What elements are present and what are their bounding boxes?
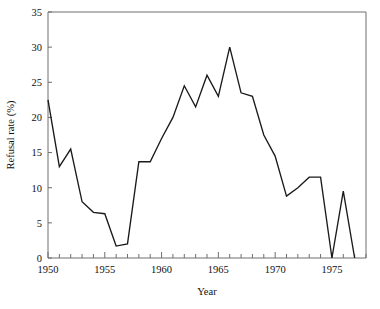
x-tick-label-1955: 1955 — [94, 264, 115, 275]
x-tick-label-1960: 1960 — [151, 264, 172, 275]
axis-frame — [48, 12, 366, 258]
y-tick-label-15: 15 — [32, 147, 43, 158]
y-tick-label-25: 25 — [32, 77, 43, 88]
chart-figure: 05101520253035 195019551960196519701975 … — [0, 0, 380, 309]
y-tick-label-5: 5 — [37, 218, 42, 229]
axis-top-left-frame — [48, 12, 366, 258]
y-axis-title: Refusal rate (%) — [5, 100, 17, 169]
data-series-refusal-rate — [48, 47, 355, 258]
x-tick-label-1970: 1970 — [265, 264, 286, 275]
x-tick-group — [48, 252, 366, 258]
y-tick-label-20: 20 — [32, 112, 43, 123]
x-axis-title: Year — [197, 286, 217, 297]
x-tick-label-1965: 1965 — [208, 264, 229, 275]
x-tick-label-1950: 1950 — [38, 264, 59, 275]
y-tick-label-30: 30 — [32, 42, 43, 53]
y-tick-label-group: 05101520253035 — [32, 7, 43, 264]
x-tick-label-group: 195019551960196519701975 — [38, 264, 343, 275]
y-tick-label-10: 10 — [32, 183, 43, 194]
refusal-rate-line-chart: 05101520253035 195019551960196519701975 … — [0, 0, 380, 309]
y-tick-label-0: 0 — [37, 253, 42, 264]
x-tick-label-1975: 1975 — [321, 264, 342, 275]
y-tick-label-35: 35 — [32, 7, 43, 18]
y-tick-group — [48, 12, 52, 258]
